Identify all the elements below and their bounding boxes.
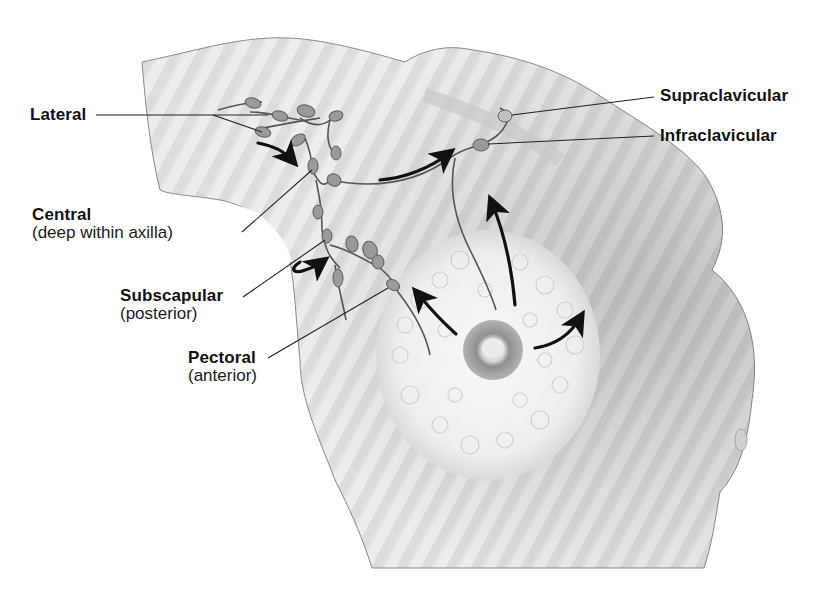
label-central: Central (deep within axilla) [32,206,173,242]
label-pectoral-sub: (anterior) [188,367,257,385]
label-pectoral-name: Pectoral [188,349,257,367]
label-subscapular-sub: (posterior) [120,305,223,323]
infraclavicular-node [473,139,489,151]
label-infraclavicular: Infraclavicular [660,127,777,145]
lymph-drainage-diagram: Lateral Central (deep within axilla) Sub… [0,0,835,593]
label-subscapular: Subscapular (posterior) [120,287,223,323]
label-infraclavicular-name: Infraclavicular [660,127,777,145]
label-lateral-name: Lateral [30,106,86,124]
supraclavicular-node [498,110,512,122]
label-central-sub: (deep within axilla) [32,224,173,242]
label-supraclavicular-name: Supraclavicular [660,87,788,105]
label-subscapular-name: Subscapular [120,287,223,305]
areola [463,320,523,380]
label-pectoral: Pectoral (anterior) [188,349,257,385]
label-lateral: Lateral [30,106,86,124]
label-central-name: Central [32,206,173,224]
label-supraclavicular: Supraclavicular [660,87,788,105]
